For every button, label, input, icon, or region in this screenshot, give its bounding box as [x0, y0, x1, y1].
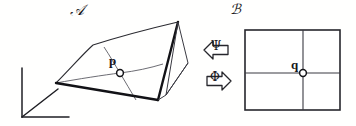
surface-front-edges [56, 22, 178, 100]
point-p-marker [117, 70, 124, 77]
manifold-chart-figure: 𝒜 ℬ p q Ψ Φ [0, 0, 356, 126]
map-psi-label: Ψ [208, 40, 224, 52]
map-phi-label: Φ [207, 71, 223, 83]
manifold-surface-a [56, 22, 188, 100]
manifold-b-label: ℬ [230, 2, 241, 16]
coordinate-axes-icon [22, 68, 69, 117]
point-q-marker [300, 70, 307, 77]
point-p-label: p [109, 54, 116, 67]
figure-canvas [0, 0, 356, 126]
manifold-a-label: 𝒜 [70, 3, 84, 18]
surface-side-face [158, 22, 188, 100]
point-q-label: q [291, 58, 298, 71]
